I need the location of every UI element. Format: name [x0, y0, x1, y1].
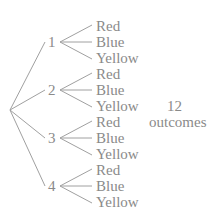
leaf: Yellow	[96, 146, 139, 162]
leaf: Red	[96, 18, 120, 34]
outcome-label: outcomes	[149, 114, 207, 130]
branch-label-4: 4	[48, 178, 56, 194]
branch-label-3: 3	[48, 130, 56, 146]
leaf: Blue	[96, 178, 124, 194]
leaf: Yellow	[96, 194, 139, 210]
leaf: Blue	[96, 130, 124, 146]
leaf: Red	[96, 114, 120, 130]
leaf: Blue	[96, 82, 124, 98]
leaf: Yellow	[96, 50, 139, 66]
leaf: Yellow	[96, 98, 139, 114]
leaf: Blue	[96, 34, 124, 50]
outcome-count: 12	[167, 98, 182, 114]
tree-diagram: 1 2 3 4 Red Blue Yellow Red Blue Yellow …	[0, 0, 216, 221]
branch-label-1: 1	[48, 34, 56, 50]
leaf: Red	[96, 66, 120, 82]
branch-label-2: 2	[48, 82, 56, 98]
leaf: Red	[96, 162, 120, 178]
